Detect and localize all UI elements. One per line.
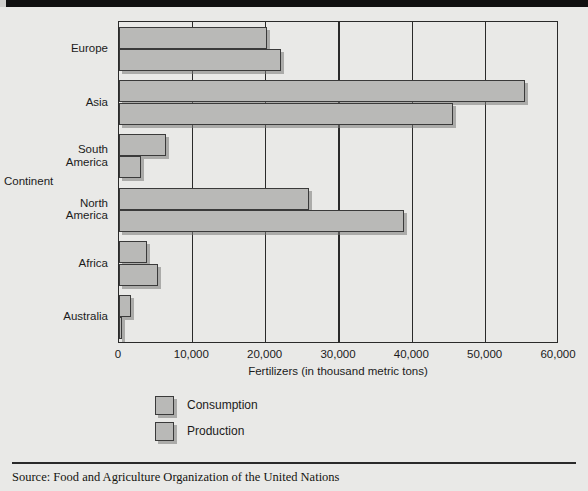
y-tick-line: Europe (0, 42, 108, 55)
bar-consumption-south-america[interactable] (119, 134, 166, 156)
bar-production-africa[interactable] (119, 264, 158, 286)
gridline (338, 22, 340, 342)
y-tick-label-europe: Europe (0, 42, 108, 55)
bar-production-asia[interactable] (119, 103, 453, 125)
y-tick-line: America (0, 155, 108, 168)
scan-top-band (0, 0, 588, 7)
scan-top-band-corner (0, 0, 6, 7)
bar-consumption-asia[interactable] (119, 80, 525, 102)
y-tick-line: Africa (0, 256, 108, 269)
y-tick-line: Australia (0, 310, 108, 323)
x-axis-title: Fertilizers (in thousand metric tons) (118, 365, 558, 377)
bar-production-europe[interactable] (119, 49, 281, 71)
y-tick-line: America (0, 209, 108, 222)
x-tick-label: 0 (115, 348, 121, 360)
bar-production-australia[interactable] (119, 317, 122, 339)
x-tick-label: 10,000 (174, 348, 209, 360)
x-tick-label: 20,000 (247, 348, 282, 360)
legend-swatch-consumption (155, 396, 174, 415)
y-tick-label-north-america: NorthAmerica (0, 196, 108, 221)
y-tick-label-africa: Africa (0, 256, 108, 269)
bar-production-south-america[interactable] (119, 156, 141, 178)
bar-consumption-north-america[interactable] (119, 188, 309, 210)
legend-label-consumption: Consumption (187, 398, 258, 412)
y-tick-line: North (0, 196, 108, 209)
x-tick-label: 30,000 (320, 348, 355, 360)
y-tick-line: South (0, 143, 108, 156)
gridline (485, 22, 487, 342)
legend-label-production: Production (187, 424, 244, 438)
legend-item-consumption[interactable]: Consumption (155, 392, 258, 418)
y-tick-label-south-america: SouthAmerica (0, 143, 108, 168)
legend-swatch-production (155, 422, 174, 441)
bar-consumption-australia[interactable] (119, 295, 131, 317)
y-tick-label-asia: Asia (0, 95, 108, 108)
y-tick-line: Asia (0, 95, 108, 108)
x-tick-label: 50,000 (467, 348, 502, 360)
bar-consumption-europe[interactable] (119, 27, 267, 49)
x-tick-label: 60,000 (540, 348, 575, 360)
chart-figure: Continent Fertilizers (in thousand metri… (0, 7, 588, 491)
gridline (412, 22, 414, 342)
source-note: Source: Food and Agriculture Organizatio… (12, 470, 339, 485)
legend-item-production[interactable]: Production (155, 418, 258, 444)
bar-consumption-africa[interactable] (119, 241, 147, 263)
y-tick-label-australia: Australia (0, 310, 108, 323)
plot-area (118, 21, 558, 343)
bar-production-north-america[interactable] (119, 210, 404, 232)
x-tick-label: 40,000 (394, 348, 429, 360)
chart-legend: Consumption Production (155, 392, 258, 444)
source-divider (12, 462, 576, 464)
y-axis-title: Continent (4, 175, 53, 187)
